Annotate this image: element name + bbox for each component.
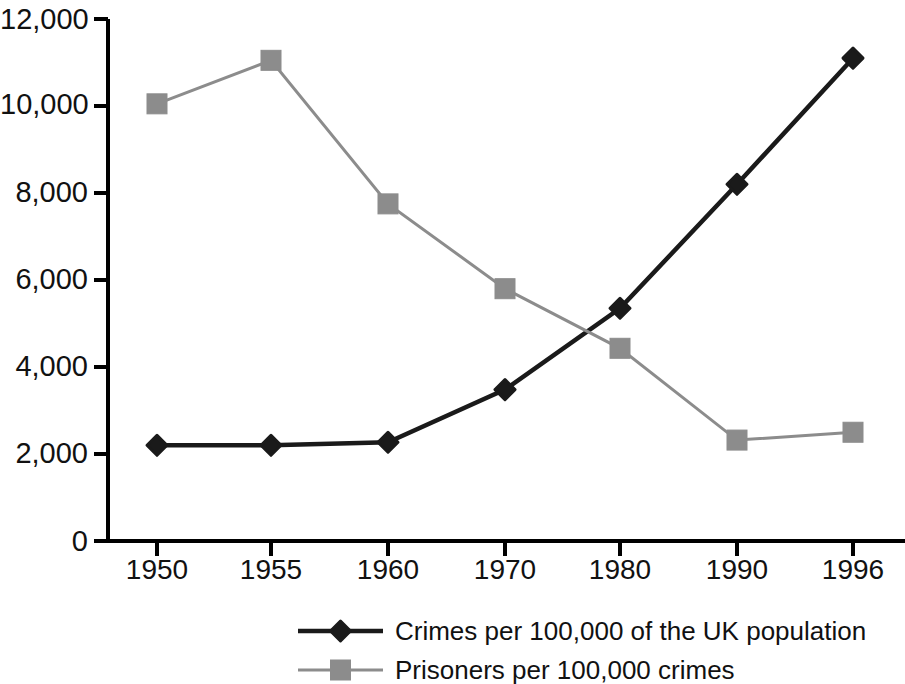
data-point <box>378 194 398 214</box>
plot-area <box>0 0 905 684</box>
legend-marker <box>331 660 351 680</box>
legend-markers <box>298 621 383 680</box>
data-point <box>261 435 281 455</box>
legend-marker <box>331 621 351 641</box>
legend-label-crimes: Crimes per 100,000 of the UK population <box>395 618 866 644</box>
data-point <box>843 422 863 442</box>
x-axis-ticks <box>157 541 853 556</box>
line-chart: 12,000 10,000 8,000 6,000 4,000 2,000 0 … <box>0 0 905 684</box>
series-crimes <box>147 48 863 455</box>
data-point <box>727 430 747 450</box>
legend-label-prisoners: Prisoners per 100,000 crimes <box>395 657 735 683</box>
data-point <box>147 435 167 455</box>
data-point <box>495 279 515 299</box>
data-series-layer <box>147 48 863 455</box>
y-axis-ticks <box>94 19 108 541</box>
data-point <box>261 50 281 70</box>
data-point <box>147 94 167 114</box>
data-point <box>378 432 398 452</box>
data-point <box>610 338 630 358</box>
